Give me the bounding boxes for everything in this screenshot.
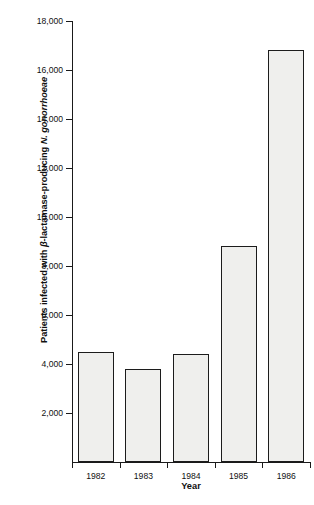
plot-area: 2,0004,0006,0008,00010,00012,00014,00016…: [72, 21, 310, 462]
y-tick: [66, 413, 72, 414]
bar: [268, 50, 304, 462]
y-tick: [66, 364, 72, 365]
x-tick-label: 1986: [277, 471, 296, 481]
y-axis-title-species: N. gonorrhoeae: [39, 77, 49, 144]
x-axis-line: [72, 462, 310, 463]
y-tick-label: 6,000: [41, 310, 63, 320]
y-axis-title-beta: β: [39, 241, 49, 247]
x-tick-label: 1982: [86, 471, 105, 481]
y-tick: [66, 315, 72, 316]
x-tick: [215, 462, 216, 468]
x-axis-title: Year: [72, 481, 310, 491]
bar: [78, 352, 114, 462]
x-tick-label: 1983: [134, 471, 153, 481]
x-tick: [262, 462, 263, 468]
y-axis-title-middle: -lactamase-producing: [39, 144, 49, 241]
bar: [221, 246, 257, 462]
y-tick: [66, 119, 72, 120]
x-tick-label: 1984: [181, 471, 200, 481]
x-tick: [120, 462, 121, 468]
y-tick: [66, 70, 72, 71]
y-tick-label: 16,000: [37, 65, 63, 75]
y-tick-label: 8,000: [41, 261, 63, 271]
y-tick: [66, 21, 72, 22]
y-axis-line: [72, 21, 73, 462]
y-tick-label: 2,000: [41, 408, 63, 418]
y-tick-label: 12,000: [37, 163, 63, 173]
bar: [125, 369, 161, 462]
y-tick-label: 18,000: [37, 16, 63, 26]
bar-chart-figure: Patients infected with β-lactamase-produ…: [0, 0, 314, 505]
y-tick-label: 4,000: [41, 359, 63, 369]
y-tick: [66, 168, 72, 169]
x-tick-label: 1985: [229, 471, 248, 481]
y-tick-label: 10,000: [37, 212, 63, 222]
y-tick: [66, 266, 72, 267]
y-tick: [66, 217, 72, 218]
y-axis-title: Patients infected with β-lactamase-produ…: [39, 70, 49, 350]
y-tick-label: 14,000: [37, 114, 63, 124]
bar: [173, 354, 209, 462]
x-tick: [72, 462, 73, 468]
x-tick: [167, 462, 168, 468]
x-tick: [310, 462, 311, 468]
